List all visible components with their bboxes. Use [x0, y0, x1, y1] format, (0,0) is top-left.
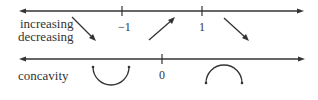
concavity-label: concavity — [18, 69, 69, 82]
second-derivative-number-line — [19, 54, 305, 64]
first-derivative-number-line — [19, 6, 304, 16]
decreasing-arrow-right — [224, 18, 249, 41]
critical-point-label-minus-one: −1 — [118, 21, 131, 33]
sign-chart-graphic — [0, 0, 318, 100]
inflection-point-label-zero: 0 — [159, 69, 165, 81]
critical-point-label-one: 1 — [199, 21, 205, 33]
concave-down-cap-icon — [205, 65, 244, 84]
decreasing-arrow-left — [72, 17, 96, 41]
increasing-arrow-middle — [149, 17, 175, 40]
decreasing-label: decreasing — [18, 30, 74, 43]
concave-up-cup-icon — [92, 66, 131, 85]
